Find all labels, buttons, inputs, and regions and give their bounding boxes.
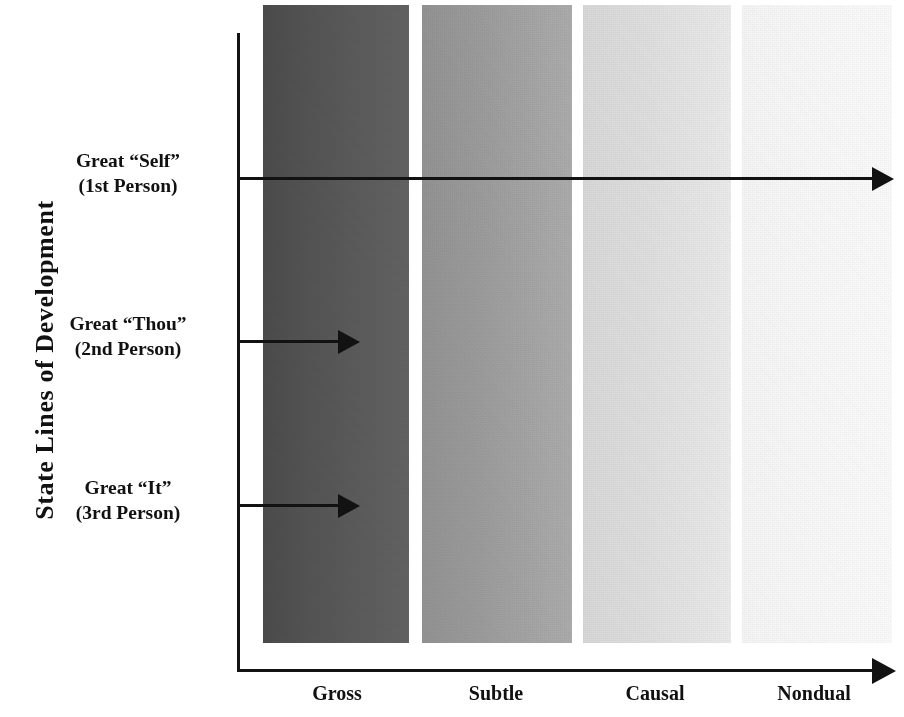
row-label-great-thou: Great “Thou” (2nd Person) xyxy=(28,311,228,362)
diagram-canvas: State Lines of Development Great “Self” … xyxy=(0,0,904,717)
band-noise-texture xyxy=(583,5,731,643)
state-arrow-great-self xyxy=(239,177,873,180)
y-axis-line xyxy=(237,33,240,671)
state-arrow-great-thou-head-icon xyxy=(338,330,360,354)
x-tick-label-gross: Gross xyxy=(247,682,427,705)
state-arrow-great-self-head-icon xyxy=(872,167,894,191)
row-label-great-self: Great “Self” (1st Person) xyxy=(28,148,228,199)
row-label-great-it-line1: Great “It” xyxy=(28,475,228,500)
state-band-gross xyxy=(263,5,409,643)
row-label-great-self-line1: Great “Self” xyxy=(28,148,228,173)
row-label-great-thou-line2: (2nd Person) xyxy=(28,336,228,361)
x-axis-arrowhead-icon xyxy=(872,658,896,684)
state-arrow-great-it xyxy=(239,504,339,507)
band-noise-texture xyxy=(742,5,892,643)
state-arrow-great-thou xyxy=(239,340,339,343)
band-noise-texture xyxy=(263,5,409,643)
state-band-causal xyxy=(583,5,731,643)
x-tick-label-nondual: Nondual xyxy=(724,682,904,705)
state-band-nondual xyxy=(742,5,892,643)
x-tick-label-causal: Causal xyxy=(565,682,745,705)
state-band-subtle xyxy=(422,5,572,643)
row-label-great-it: Great “It” (3rd Person) xyxy=(28,475,228,526)
row-label-great-it-line2: (3rd Person) xyxy=(28,500,228,525)
band-noise-texture xyxy=(422,5,572,643)
state-arrow-great-it-head-icon xyxy=(338,494,360,518)
row-label-great-thou-line1: Great “Thou” xyxy=(28,311,228,336)
row-label-great-self-line2: (1st Person) xyxy=(28,173,228,198)
x-axis-line xyxy=(237,669,883,672)
x-tick-label-subtle: Subtle xyxy=(406,682,586,705)
